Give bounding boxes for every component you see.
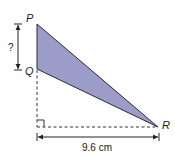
triangle-diagram: P Q R ? 9.6 cm	[0, 0, 175, 156]
diagram-canvas: P Q R ? 9.6 cm	[0, 0, 175, 156]
vertex-label-p: P	[26, 12, 34, 24]
arrowhead-up-icon	[16, 25, 21, 30]
arrowhead-right-icon	[153, 135, 158, 140]
vertex-label-r: R	[162, 119, 170, 131]
base-length-label: 9.6 cm	[82, 142, 112, 153]
right-angle-marker	[37, 120, 44, 127]
triangle-pqr	[37, 24, 158, 127]
vertex-label-q: Q	[25, 65, 34, 77]
unknown-length-label: ?	[8, 42, 14, 53]
arrowhead-left-icon	[38, 135, 43, 140]
arrowhead-down-icon	[16, 64, 21, 69]
